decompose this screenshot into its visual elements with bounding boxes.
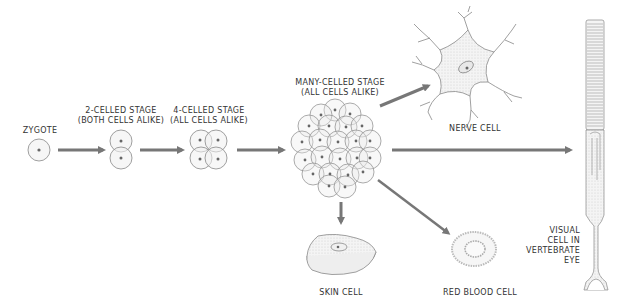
skin-cell [307,234,376,274]
four-celled-stage [190,130,227,169]
red-blood-cell-label: RED BLOOD CELL [440,288,520,298]
two-celled-label: 2-CELLED STAGE (BOTH CELLS ALIKE) [76,106,166,126]
zygote-label: ZYGOTE [12,126,68,136]
four-celled-label: 4-CELLED STAGE (ALL CELLS ALIKE) [164,106,254,126]
nerve-cell [412,6,522,128]
nerve-cell-label-text: NERVE CELL [449,124,501,133]
skin-cell-label-text: SKIN CELL [319,288,362,297]
nerve-cell-label: NERVE CELL [440,124,510,134]
visual-cell-label-line4: EYE [520,256,580,266]
many-celled-label-line2: (ALL CELLS ALIKE) [290,88,390,98]
arrow-to-red-blood-cell [378,180,448,233]
visual-cell-label-line2: CELL IN [520,236,580,246]
red-blood-cell [452,232,496,266]
many-celled-stage [291,99,381,198]
four-celled-label-line1: 4-CELLED STAGE [164,106,254,116]
two-celled-label-line1: 2-CELLED STAGE [76,106,166,116]
four-celled-label-line2: (ALL CELLS ALIKE) [164,116,254,126]
visual-cell-label-line1: VISUAL [520,226,580,236]
many-celled-label: MANY-CELLED STAGE (ALL CELLS ALIKE) [290,78,390,98]
visual-cell-label: VISUAL CELL IN VERTEBRATE EYE [520,226,580,266]
zygote-cell [28,139,50,161]
visual-cell [584,20,608,290]
zygote-label-text: ZYGOTE [23,126,58,135]
skin-cell-label: SKIN CELL [306,288,376,298]
red-blood-cell-label-text: RED BLOOD CELL [443,288,517,297]
two-celled-stage [110,130,132,169]
two-celled-label-line2: (BOTH CELLS ALIKE) [76,116,166,126]
many-celled-label-line1: MANY-CELLED STAGE [290,78,390,88]
visual-cell-label-line3: VERTEBRATE [520,246,580,256]
